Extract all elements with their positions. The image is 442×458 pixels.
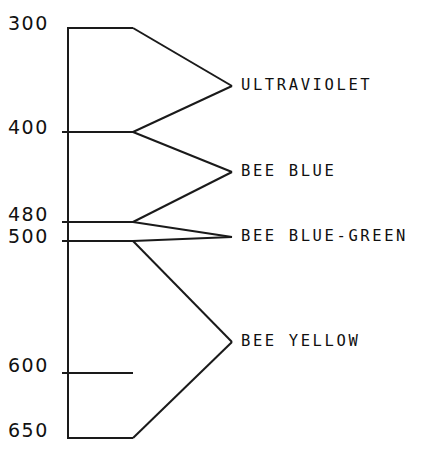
tick-label-500: 500 bbox=[8, 227, 49, 246]
tick-label-400: 400 bbox=[8, 118, 49, 137]
tick-label-480: 480 bbox=[8, 205, 49, 224]
band-label-bee-yellow: BEE YELLOW bbox=[241, 334, 360, 350]
wedge-bee-yellow-lower bbox=[133, 342, 232, 438]
wedge-bee-blue-green-lower bbox=[133, 237, 232, 241]
wedge-bee-blue-green-upper bbox=[133, 222, 232, 237]
tick-label-600: 600 bbox=[8, 356, 49, 375]
wedge-ultraviolet-upper bbox=[133, 28, 232, 86]
band-label-bee-blue: BEE BLUE bbox=[241, 164, 336, 180]
wedge-ultraviolet-lower bbox=[133, 86, 232, 132]
tick-label-300: 300 bbox=[8, 14, 49, 33]
band-label-bee-blue-green: BEE BLUE-GREEN bbox=[241, 229, 408, 245]
band-label-ultraviolet: ULTRAVIOLET bbox=[241, 78, 372, 94]
wedge-bee-yellow-upper bbox=[133, 241, 232, 342]
wedge-bee-blue-upper bbox=[133, 132, 232, 172]
tick-label-650: 650 bbox=[8, 421, 49, 440]
wedge-bee-blue-lower bbox=[133, 172, 232, 222]
bee-spectrum-diagram: 300 400 480 500 600 650 ULTRAVIOLET BEE … bbox=[0, 0, 442, 458]
